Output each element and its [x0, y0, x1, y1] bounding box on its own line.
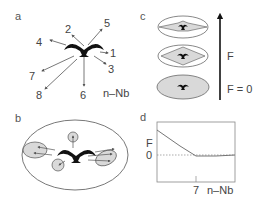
label-2: 2	[65, 23, 71, 35]
panel-a-label: a	[15, 10, 22, 22]
panel-c-label: c	[140, 10, 146, 22]
y-axis-label: F	[146, 137, 153, 149]
x-axis-label: n–Nb	[207, 184, 233, 196]
zero-force-label: F = 0	[227, 83, 252, 95]
label-5: 5	[104, 17, 110, 29]
panel-d: d F 0 7 n–Nb	[140, 111, 235, 196]
species-label: n–Nb	[103, 87, 129, 99]
label-7: 7	[29, 70, 35, 82]
label-6: 6	[80, 89, 86, 101]
panel-b: b	[15, 112, 128, 190]
panel-a: a 1 2 3 4 5 6 7 8 n–Nb	[15, 10, 129, 101]
x-tick-label: 7	[193, 184, 199, 196]
panel-c: c F F = 0	[140, 10, 252, 100]
molecule-icon	[64, 44, 104, 57]
label-8: 8	[36, 89, 42, 101]
force-curve	[157, 130, 235, 156]
cluster-bottom	[52, 159, 64, 171]
cluster-left	[23, 142, 47, 158]
label-1: 1	[110, 47, 116, 59]
figure: a 1 2 3 4 5 6 7 8 n–Nb b	[0, 0, 264, 206]
panel-d-label: d	[140, 111, 146, 123]
force-label: F	[227, 50, 234, 62]
neighbor-arrows	[42, 29, 108, 89]
plot-frame	[157, 122, 235, 182]
panel-b-label: b	[15, 112, 21, 124]
label-4: 4	[36, 36, 42, 48]
label-3: 3	[108, 63, 114, 75]
y-zero-tick: 0	[146, 149, 152, 161]
